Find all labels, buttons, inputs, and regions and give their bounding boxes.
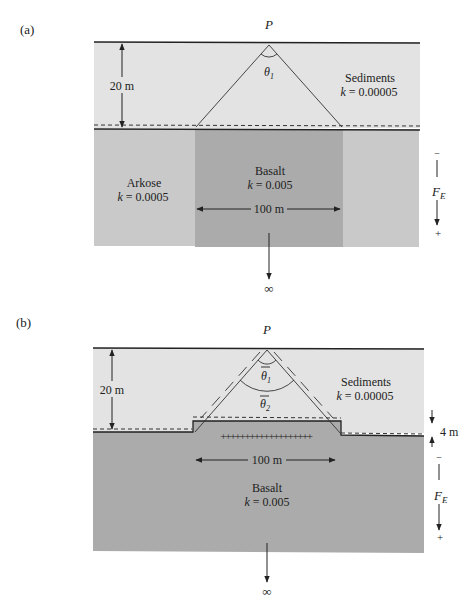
panel-a-label: (a) (20, 22, 34, 37)
field-minus-b: − (436, 452, 442, 463)
depth-label-b: 20 m (100, 383, 125, 397)
point-p-label-a: P (264, 17, 273, 32)
infinity-label-b: ∞ (262, 584, 271, 599)
field-plus-a: + (435, 227, 441, 239)
basalt-k-a: k = 0.005 (247, 178, 292, 192)
field-plus-b: + (437, 531, 443, 543)
sediments-name-b: Sediments (341, 375, 391, 389)
step-label-b: 4 m (440, 425, 459, 439)
panel-a: (a) P θ1 20 m Sediments k = 0.00005 Arko… (20, 17, 446, 296)
width-label-a: 100 m (254, 202, 285, 216)
arkose-k: k = 0.0005 (117, 190, 168, 204)
arkose-name: Arkose (127, 176, 162, 190)
panel-b: (b) P θ1 θ2 20 m Sediments k = 0.00005 (16, 315, 459, 599)
field-label-a: FE (431, 184, 446, 201)
figure-canvas: (a) P θ1 20 m Sediments k = 0.00005 Arko… (0, 0, 474, 605)
arkose-layer-right (343, 129, 419, 247)
width-label-b: 100 m (252, 453, 283, 467)
sediments-k-a: k = 0.00005 (340, 85, 397, 99)
charge-marks-b: +++++++++++++++++++ (220, 430, 312, 442)
field-label-b: FE (433, 488, 448, 505)
sediments-name-a: Sediments (345, 71, 395, 85)
basalt-name-b: Basalt (252, 481, 283, 495)
field-minus-a: − (434, 148, 440, 159)
infinity-label-a: ∞ (264, 281, 273, 296)
sediments-k-b: k = 0.00005 (336, 389, 393, 403)
depth-label-a: 20 m (110, 79, 135, 93)
point-p-label-b: P (262, 322, 271, 337)
basalt-k-b: k = 0.005 (244, 495, 289, 509)
dashed-line-right-b (341, 433, 424, 434)
panel-b-label: (b) (16, 315, 31, 330)
basalt-name-a: Basalt (255, 164, 286, 178)
